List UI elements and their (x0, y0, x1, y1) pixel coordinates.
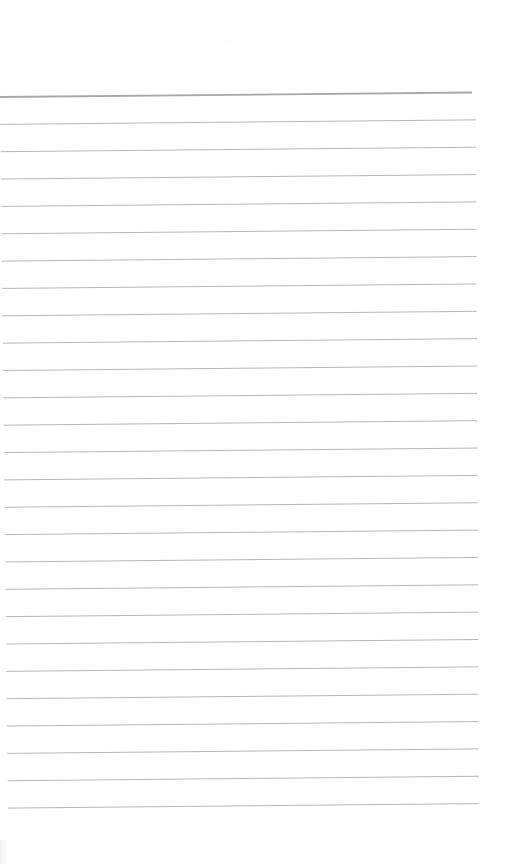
ruled-line (4, 475, 477, 480)
lined-paper-page (0, 0, 508, 864)
ruled-line (8, 804, 479, 809)
ruled-line (4, 448, 478, 453)
ruled-line (5, 503, 478, 508)
ruled-line (6, 640, 478, 645)
ruled-line (3, 339, 477, 344)
ruled-line (8, 776, 480, 781)
ruled-line (2, 284, 477, 289)
ruled-line (7, 722, 479, 727)
ruled-line (7, 749, 479, 754)
ruled-line (3, 366, 477, 371)
ruled-line (5, 557, 478, 562)
ruled-line (2, 257, 477, 262)
ruled-line (7, 694, 479, 699)
ruled-line (5, 585, 478, 590)
ruled-line (2, 311, 477, 316)
ruled-line (4, 421, 478, 426)
ruled-line (2, 229, 477, 234)
ruled-line (6, 612, 479, 617)
ruled-line (6, 667, 478, 672)
page-corner-shadow (0, 840, 8, 864)
ruled-line-top (0, 93, 472, 98)
ruled-line (1, 202, 476, 207)
ruled-line (3, 393, 477, 398)
ruled-line (0, 120, 476, 125)
ruled-lines (0, 0, 508, 864)
ruled-line (1, 175, 476, 180)
ruled-line (1, 147, 477, 152)
ruled-line (5, 530, 478, 535)
